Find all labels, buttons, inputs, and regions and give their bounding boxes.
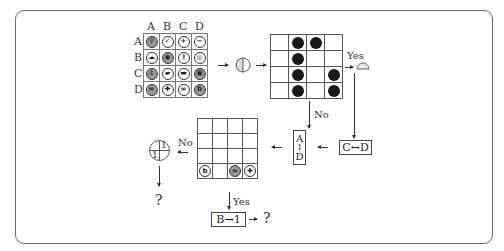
arrow-right — [256, 65, 266, 66]
rotation-symbol: 1 1 — [148, 139, 171, 162]
icon-grid: ⚲ ✓ + − ☁ ◉ ⚷ ◎ ⚓ ▰ ▬ ▣ ∞ ✚ ∞ b — [143, 33, 208, 98]
question-mark: ? — [263, 211, 271, 225]
dot-grid — [270, 34, 343, 99]
swap-top-label: A — [296, 134, 303, 144]
chat-icon: ▰ — [162, 68, 174, 80]
filled-dot — [292, 53, 304, 65]
arrow-left — [272, 147, 282, 148]
rotation-top-right-label: 1 — [161, 141, 167, 150]
arrow-left — [178, 152, 188, 153]
filled-dot — [292, 37, 304, 49]
filled-dot — [328, 85, 340, 97]
eye-icon: ◎ — [194, 52, 206, 64]
swap-bottom-label: D — [295, 152, 303, 162]
column-label-d: D — [195, 21, 204, 32]
column-label-a: A — [147, 21, 155, 32]
no-label: No — [178, 138, 193, 148]
arrow-left — [318, 147, 328, 148]
no-label: No — [314, 110, 329, 120]
swap-c-d-box: C↔D — [339, 140, 372, 155]
key-icon: ⚷ — [178, 52, 190, 64]
yes-label: Yes — [233, 197, 250, 207]
question-mark: ? — [155, 193, 163, 207]
image-icon: ▣ — [194, 68, 206, 80]
row-label-a: A — [134, 36, 142, 47]
link-icon: ∞ — [178, 84, 190, 96]
check-icon: ✓ — [162, 36, 174, 48]
plus-icon: ✚ — [162, 84, 174, 96]
column-label-b: B — [163, 21, 171, 32]
cloud-icon: ☁ — [146, 52, 158, 64]
link-icon: ∞ — [229, 165, 241, 177]
arrow-right — [249, 219, 257, 220]
minus-icon: − — [194, 36, 206, 48]
arrow-down — [309, 101, 310, 128]
message-icon: ▬ — [178, 68, 190, 80]
replace-b-with-1-box: B→1 — [211, 212, 246, 227]
filled-dot — [310, 37, 322, 49]
row-label-c: C — [134, 68, 142, 79]
yes-label: Yes — [347, 51, 364, 61]
rotation-bottom-left-label: 1 — [152, 151, 158, 160]
filled-dot — [292, 69, 304, 81]
b-letter-icon: b — [194, 84, 206, 96]
plus-circle-icon: + — [178, 36, 190, 48]
row-label-b: B — [134, 52, 142, 63]
dome-icon — [356, 61, 370, 70]
arrow-right — [345, 67, 353, 68]
swap-a-d-box: A ↕ D — [293, 130, 306, 165]
anchor-icon: ⚓ — [146, 68, 158, 80]
result-grid: b ∞ ✚ — [197, 118, 258, 179]
infinity-icon: ∞ — [146, 84, 158, 96]
arrow-down — [354, 73, 355, 138]
b-letter-icon: b — [199, 165, 211, 177]
search-icon: ⚲ — [146, 36, 158, 48]
row-label-d: D — [134, 84, 143, 95]
filled-dot — [292, 85, 304, 97]
arrow-down — [229, 192, 230, 209]
arrow-right — [218, 65, 228, 66]
half-circle-operator-icon — [235, 57, 251, 73]
target-icon: ◉ — [162, 52, 174, 64]
filled-dot — [328, 69, 340, 81]
column-label-c: C — [179, 21, 187, 32]
plus-icon: ✚ — [244, 165, 256, 177]
arrow-down — [159, 166, 160, 186]
